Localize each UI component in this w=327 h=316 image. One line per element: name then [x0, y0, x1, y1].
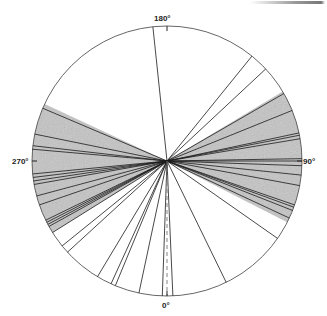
polar-diagram: 180° 90° 0° 270° — [0, 0, 327, 316]
direction-line — [153, 27, 167, 161]
direction-line — [167, 161, 173, 296]
label-180: 180° — [154, 14, 171, 23]
label-90: 90° — [303, 157, 315, 166]
label-0: 0° — [162, 301, 170, 310]
label-270: 270° — [12, 157, 29, 166]
